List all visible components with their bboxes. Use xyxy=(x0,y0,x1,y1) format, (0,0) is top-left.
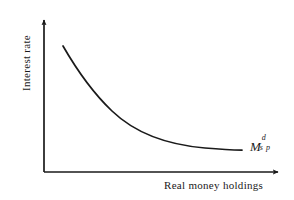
money-demand-curve xyxy=(63,46,242,150)
y-axis-label: Interest rate xyxy=(21,0,35,128)
curve-label: Mds p xyxy=(250,138,272,153)
curve-label-subscript: s p xyxy=(260,144,271,152)
x-axis-label: Real money holdings xyxy=(164,180,263,191)
curve-label-scripts: ds p xyxy=(261,138,272,151)
economics-figure: Interest rate Real money holdings Mds p xyxy=(0,0,294,200)
curve-label-superscript: d xyxy=(262,134,266,142)
figure-canvas xyxy=(0,0,294,200)
